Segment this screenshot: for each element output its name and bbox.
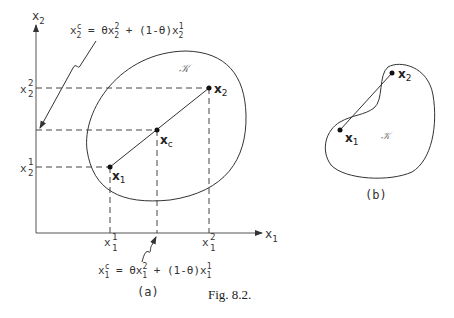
svg-text:1: 1	[28, 157, 33, 167]
set-label-K: 𝒦	[179, 62, 193, 75]
point-x2-b-label: x2	[398, 67, 411, 83]
point-x1-b	[338, 128, 343, 133]
point-xc-label: xc	[160, 133, 173, 149]
y-axis-label: x2	[32, 9, 45, 26]
figure-canvas: x2 x1 𝒦 x1 xc x2 x 2 2 x 1	[0, 0, 454, 318]
point-x1-label: x1	[112, 169, 125, 185]
svg-text:xc1 = θx21 + (1-θ)x11: xc1 = θx21 + (1-θ)x11	[98, 262, 212, 280]
svg-text:xc2 = θx22 + (1-θ)x12: xc2 = θx22 + (1-θ)x12	[70, 22, 184, 40]
svg-text:2: 2	[28, 78, 33, 88]
segment-x1-x2-b	[340, 73, 392, 130]
formula-x1c: xc1 = θx21 + (1-θ)x11	[98, 262, 212, 280]
formula-x2c: xc2 = θx22 + (1-θ)x12	[70, 22, 184, 40]
point-x2	[207, 86, 212, 91]
set-label-K-b: 𝒦	[381, 130, 394, 141]
svg-text:x: x	[20, 83, 27, 96]
svg-text:1: 1	[210, 243, 215, 253]
tick-x1-2: x 2 1	[202, 232, 215, 253]
svg-text:1: 1	[112, 232, 117, 242]
figure-caption: Fig. 8.2.	[208, 287, 251, 302]
svg-text:x: x	[104, 236, 111, 249]
panel-a: x2 x1 𝒦 x1 xc x2 x 2 2 x 1	[20, 9, 278, 299]
svg-text:x: x	[202, 236, 209, 249]
panel-a-label: (a)	[137, 285, 159, 299]
pointer-to-x1c	[142, 237, 156, 262]
x-axis-label: x1	[265, 227, 278, 244]
pointer-to-x2c	[40, 41, 96, 128]
svg-text:2: 2	[28, 89, 33, 99]
point-xc	[155, 128, 160, 133]
svg-text:x: x	[20, 162, 27, 175]
tick-x2-1: x 1 2	[20, 157, 33, 178]
segment-x1-x2	[110, 88, 209, 167]
panel-b-label: (b)	[365, 188, 387, 202]
nonconvex-set-boundary	[325, 64, 434, 178]
tick-x1-1: x 1 1	[104, 232, 117, 253]
point-x1-b-label: x1	[345, 131, 358, 147]
projection-lines	[36, 88, 209, 233]
tick-x2-2: x 2 2	[20, 78, 33, 99]
point-x2-b	[390, 71, 395, 76]
point-x2-label: x2	[214, 82, 227, 98]
svg-text:1: 1	[112, 243, 117, 253]
panel-b: x1 x2 𝒦 (b)	[325, 64, 434, 202]
svg-text:2: 2	[210, 232, 215, 242]
svg-text:2: 2	[28, 168, 33, 178]
